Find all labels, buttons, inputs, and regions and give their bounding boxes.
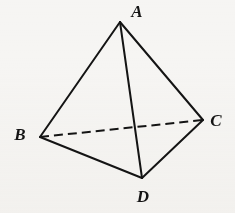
vertex-label-A: A [131,3,142,20]
tetrahedron-figure: A B C D [0,0,235,213]
edge-BD [40,137,142,178]
vertex-label-C: C [210,112,221,129]
edge-DC [142,120,203,178]
edge-AB [40,22,120,137]
edge-BC-hidden [40,120,203,137]
tetrahedron-diagram [0,0,235,213]
vertex-label-D: D [137,188,149,205]
vertex-label-B: B [14,126,25,143]
